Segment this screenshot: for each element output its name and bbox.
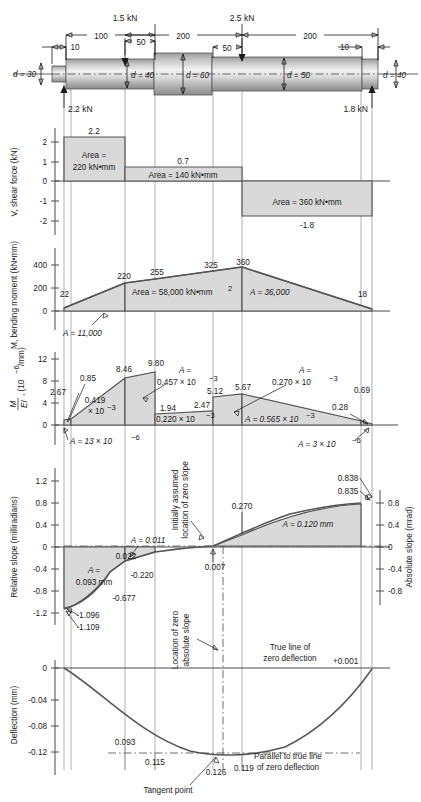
mei-area-13-exp: −6: [131, 433, 140, 442]
mei-area-0457-l2: 0.457 × 10: [157, 378, 196, 387]
moment-value-360: 360: [236, 258, 250, 267]
moment-axis-label: M, bending moment (kN•mm): [9, 241, 19, 349]
dim-100: 100: [94, 32, 108, 41]
load-1-5kn-label: 1.5 kN: [113, 13, 138, 23]
moment-value-255: 255: [150, 268, 164, 277]
mei-value-5-67: 5.67: [235, 383, 251, 392]
slope-tick-0-8: 0.8: [36, 499, 48, 508]
shear-tick-m1: -1: [40, 197, 48, 206]
shear-axis-label: V, shear force (kN): [9, 147, 19, 216]
panel-deflection: 0 -0.04 -0.08 -0.12 Deflection (mm) 0.09…: [9, 643, 390, 795]
slope-rtick-0: 0: [388, 543, 393, 552]
slope-area-left-l2: 0.093 mm: [76, 578, 113, 587]
mei-area-0270-l1: A =: [298, 366, 311, 375]
svg-text:, (10: , (10: [17, 379, 26, 396]
slope-value-m1-096: -1.096: [76, 611, 100, 620]
defl-tick-m0-08: -0.08: [28, 722, 47, 731]
slope-value-0-835: 0.835: [338, 487, 359, 496]
mei-area-0220: 0.220 × 10: [156, 415, 195, 424]
mei-tick-12: 12: [38, 355, 48, 364]
label-d30: d = 30: [13, 70, 36, 79]
dim-10-left: 10: [70, 43, 80, 52]
defl-value-0-093: 0.093: [115, 738, 136, 747]
mei-area-0457-exp: −3: [209, 374, 218, 383]
slope-value-0-270: 0.270: [232, 502, 253, 511]
defl-value-p0-001: +0.001: [333, 657, 359, 666]
slope-tick-m1-2: -1.2: [33, 609, 48, 618]
deflection-curve: [64, 668, 372, 755]
slope-value-m0-677: -0.677: [112, 594, 136, 603]
mei-area-3: A = 3 × 10: [297, 440, 336, 449]
shear-area-3: Area = 360 kN•mm: [272, 198, 341, 207]
reaction-right-label: 1.8 kN: [343, 104, 368, 114]
note-true-l2: zero deflection: [263, 654, 317, 663]
shear-tick-0: 0: [42, 177, 47, 186]
dim-10-right: 10: [340, 43, 350, 52]
slope-rtick-m0-4: -0.4: [388, 565, 403, 574]
mei-area-0220-exp: −3: [206, 411, 215, 420]
moment-area-2-label: Area = 58,000 kN•mm: [132, 288, 213, 297]
panel-mei: 12 8 4 0 M EI , (10 −6 /mm) 2.67 0.85 8.…: [9, 347, 398, 449]
moment-area-1-label: A = 11,000: [62, 329, 102, 338]
slope-tick-0: 0: [42, 543, 47, 552]
moment-value-18: 18: [358, 290, 368, 299]
slope-area-mid-label: A = 0.011: [130, 536, 165, 545]
slope-tick-m0-4: -0.4: [33, 565, 48, 574]
panel-slope: 1.2 0.8 0.4 0 -0.4 -0.8 -1.2 Relative sl…: [9, 461, 414, 770]
slope-tick-0-4: 0.4: [36, 521, 48, 530]
moment-value-325: 325: [204, 261, 218, 270]
slope-tick-m0-8: -0.8: [33, 587, 48, 596]
moment-tick-200: 200: [33, 284, 47, 293]
mei-tick-0: 0: [42, 421, 47, 430]
shear-area-2: Area = 140 kN•mm: [148, 171, 217, 180]
note-parallel-l2: of zero deflection: [257, 763, 320, 772]
mei-value-2-47: 2.47: [194, 401, 210, 410]
note-parallel-l1: Parallel to true line: [254, 752, 322, 761]
mei-area-0565-exp: −3: [306, 411, 315, 420]
label-d60: d = 60: [186, 71, 209, 80]
slope-value-m0-220: -0.220: [130, 571, 154, 580]
defl-axis-label: Deflection (mm): [9, 685, 19, 744]
moment-value-220: 220: [117, 272, 131, 281]
shear-area-1-line2: 220 kN•mm: [73, 163, 116, 172]
reaction-left-label: 2.2 kN: [68, 104, 93, 114]
dim-50-right: 50: [222, 44, 232, 53]
mei-area-0419-l2: × 10: [88, 407, 105, 416]
shear-tick-1: 1: [42, 158, 47, 167]
moment-area-2-sup: 2: [228, 284, 232, 293]
figure-root: 100 10 50 200 50 200: [0, 0, 421, 802]
defl-value-0-119: 0.119: [234, 764, 254, 773]
mei-area-3-exp: −6: [352, 436, 361, 445]
mei-block-c: [125, 372, 155, 425]
mei-tick-4: 4: [42, 399, 47, 408]
mei-axis-label: M EI , (10 −6 /mm): [9, 347, 29, 410]
shear-value-m1-8: -1.8: [300, 221, 315, 230]
moment-tick-0: 0: [42, 307, 47, 316]
slope-rtick-0-8: 0.8: [388, 499, 400, 508]
slope-area-left-l1: A =: [87, 566, 100, 575]
note-zero-l1: Location of zero: [171, 610, 180, 669]
slope-rtick-0-4: 0.4: [388, 521, 400, 530]
defl-tick-m0-12: -0.12: [28, 748, 47, 757]
shear-value-0-7: 0.7: [177, 157, 189, 166]
mei-value-2-67: 2.67: [50, 388, 66, 397]
note-assumed-l1: Initially assumed: [171, 469, 180, 530]
note-tangent-point: Tangent point: [143, 786, 193, 795]
mei-area-0270-exp: −3: [329, 374, 338, 383]
slope-tick-1-2: 1.2: [36, 477, 48, 486]
mei-tick-8: 8: [42, 377, 47, 386]
note-true-l1: True line of: [270, 643, 311, 652]
mei-block-e: [213, 394, 242, 425]
defl-value-0-126: 0.126: [206, 768, 227, 777]
defl-tick-0: 0: [42, 664, 47, 673]
moment-tick-400: 400: [33, 261, 47, 270]
svg-text:/mm): /mm): [17, 347, 26, 366]
note-zero-l2: absolute slope: [182, 613, 191, 666]
dim-50-left: 50: [136, 38, 146, 47]
slope-axis-label-right: Absolute slope (mrad): [404, 506, 414, 587]
dim-200-right: 200: [303, 32, 317, 41]
note-assumed-l2: location of zero slope: [181, 461, 190, 539]
defl-tick-m0-04: -0.04: [28, 696, 47, 705]
mei-value-0-28: 0.28: [332, 403, 348, 412]
slope-value-0-007: 0.007: [205, 563, 226, 572]
